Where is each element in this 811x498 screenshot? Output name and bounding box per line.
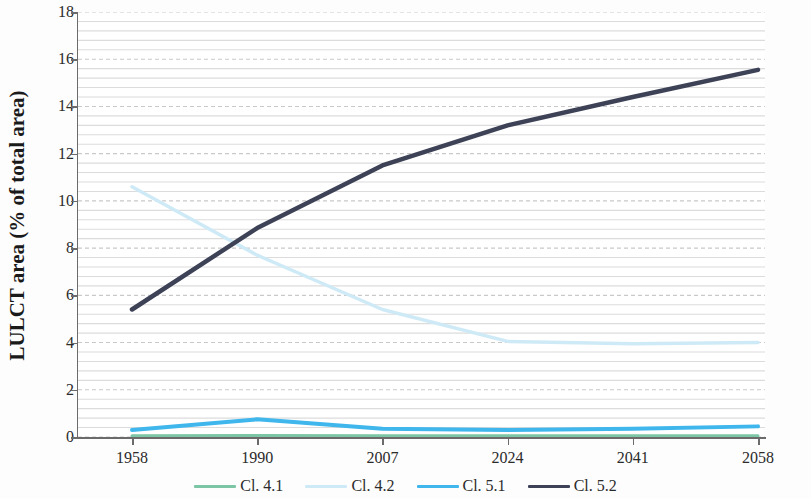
y-axis-tick-label: 2 <box>40 382 74 398</box>
x-axis-tick-mark <box>758 438 760 445</box>
series-lines <box>78 12 765 437</box>
legend-color-swatch <box>194 485 236 488</box>
x-axis-tick-label: 2041 <box>588 449 678 467</box>
legend-color-swatch <box>528 485 570 488</box>
legend-color-swatch <box>417 485 459 488</box>
legend-item[interactable]: Cl. 4.2 <box>305 477 394 495</box>
plot-area <box>78 12 765 437</box>
series-line-cl-5-1 <box>132 419 758 430</box>
legend-item[interactable]: Cl. 4.1 <box>194 477 283 495</box>
legend-label: Cl. 5.1 <box>463 477 506 495</box>
y-axis-tick-label: 8 <box>40 240 74 256</box>
y-axis-tick-label: 4 <box>40 335 74 351</box>
y-axis-tick-mark <box>71 154 78 156</box>
x-axis-tick-label: 2007 <box>337 449 427 467</box>
x-axis-tick-label: 2058 <box>713 449 803 467</box>
y-axis-tick-mark <box>71 437 78 439</box>
x-axis-tick-mark <box>508 438 510 445</box>
x-axis-tick-mark <box>132 438 134 445</box>
y-axis-tick-label: 0 <box>40 429 74 445</box>
y-axis-tick-label: 10 <box>40 193 74 209</box>
series-line-cl-5-2 <box>132 70 758 310</box>
y-axis-tick-mark <box>71 201 78 203</box>
y-axis-tick-mark <box>71 295 78 297</box>
chart-figure: LULCT area (% of total area) 02468101214… <box>0 0 811 498</box>
x-axis-tick-mark <box>382 438 384 445</box>
y-axis-tick-mark <box>71 343 78 345</box>
y-axis-tick-label: 6 <box>40 287 74 303</box>
y-axis-tick-label: 18 <box>40 4 74 20</box>
series-line-cl-4-2 <box>132 187 758 344</box>
y-axis-title: LULCT area (% of total area) <box>5 90 30 360</box>
x-axis-tick-mark <box>257 438 259 445</box>
y-axis-title-container: LULCT area (% of total area) <box>0 0 34 450</box>
legend-item[interactable]: Cl. 5.2 <box>528 477 617 495</box>
y-axis-tick-mark <box>71 248 78 250</box>
legend-label: Cl. 4.1 <box>240 477 283 495</box>
legend-label: Cl. 5.2 <box>574 477 617 495</box>
y-axis-tick-label: 12 <box>40 146 74 162</box>
x-axis-tick-label: 1958 <box>87 449 177 467</box>
y-axis-tick-mark <box>71 59 78 61</box>
y-axis-tick-label: 16 <box>40 51 74 67</box>
y-axis-tick-mark <box>71 390 78 392</box>
x-axis-line <box>77 437 766 439</box>
x-axis-tick-label: 2024 <box>463 449 553 467</box>
y-axis-tick-label-column: 024681012141618 <box>34 0 74 450</box>
y-axis-tick-mark <box>71 106 78 108</box>
legend-label: Cl. 4.2 <box>351 477 394 495</box>
legend-item[interactable]: Cl. 5.1 <box>417 477 506 495</box>
chart-legend: Cl. 4.1Cl. 4.2Cl. 5.1Cl. 5.2 <box>0 474 811 498</box>
y-axis-tick-label: 14 <box>40 98 74 114</box>
y-axis-tick-mark <box>71 12 78 14</box>
x-axis-tick-mark <box>633 438 635 445</box>
x-axis-tick-label: 1990 <box>212 449 302 467</box>
legend-color-swatch <box>305 485 347 488</box>
